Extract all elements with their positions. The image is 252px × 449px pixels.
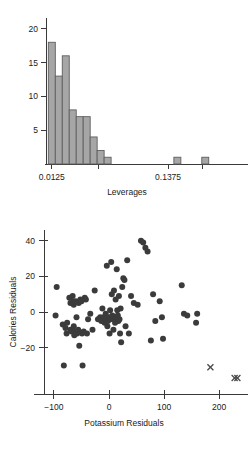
hist-x-axis-title: Leverages [107, 187, 147, 197]
scatter-point [111, 288, 117, 294]
scatter-point [64, 320, 70, 326]
scatter-point [116, 316, 122, 322]
scatter-y-tick-label: 0 [30, 307, 35, 317]
scatter-point [124, 257, 130, 263]
scatter-point [92, 288, 98, 294]
scatter-x-tick-label: −100 [44, 402, 63, 412]
scatter-point [160, 336, 166, 342]
scatter-point [128, 293, 134, 299]
hist-x-tick-label: 0.1375 [155, 172, 181, 182]
scatter-point [126, 330, 132, 336]
scatter-y-tick-label: −20 [21, 343, 36, 353]
scatter-x-tick-label: 0 [107, 402, 112, 412]
hist-y-tick-label: 10 [29, 91, 39, 101]
scatter-point [150, 291, 156, 297]
scatter-point [118, 339, 124, 345]
scatter-point [74, 314, 80, 320]
hist-bar [83, 117, 90, 164]
scatter-point [104, 323, 110, 329]
hist-bar [62, 56, 69, 164]
scatter-point [76, 343, 82, 349]
hist-bar [97, 150, 104, 164]
scatter-point [85, 316, 91, 322]
residuals-scatter-svg: −2002040−1000100200Potassium ResidualsCa… [0, 212, 252, 449]
scatter-point [110, 327, 116, 333]
hist-bar [174, 157, 181, 164]
scatter-point [194, 311, 200, 317]
residuals-scatter-figure: −2002040−1000100200Potassium ResidualsCa… [0, 212, 252, 449]
leverages-histogram-figure: 51015200.01250.1375Leverages [0, 0, 252, 212]
scatter-point [61, 362, 67, 368]
scatter-y-axis-title: Calories Residuals [8, 277, 18, 348]
scatter-point [54, 284, 60, 290]
scatter-y-tick-label: 40 [26, 236, 36, 246]
hist-bar [69, 110, 76, 164]
scatter-point [179, 282, 185, 288]
hist-y-tick-label: 5 [33, 125, 38, 135]
scatter-point [108, 259, 114, 265]
scatter-point [157, 298, 163, 304]
scatter-point [99, 305, 105, 311]
scatter-point [135, 302, 141, 308]
scatter-point [83, 297, 89, 303]
hist-bar [48, 42, 55, 164]
scatter-point [53, 313, 59, 319]
scatter-point [123, 323, 129, 329]
scatter-point [80, 362, 86, 368]
scatter-point [114, 266, 120, 272]
scatter-x-axis-title: Potassium Residuals [84, 418, 163, 428]
scatter-point [148, 338, 154, 344]
scatter-point [121, 277, 127, 283]
hist-y-tick-label: 15 [29, 58, 39, 68]
scatter-point [145, 248, 151, 254]
scatter-point [117, 330, 123, 336]
scatter-point [84, 330, 90, 336]
scatter-point [70, 293, 76, 299]
scatter-x-tick-label: 200 [212, 402, 226, 412]
hist-x-tick-label: 0.0125 [39, 172, 65, 182]
scatter-point [87, 311, 93, 317]
scatter-point [118, 305, 124, 311]
scatter-point [159, 314, 165, 320]
hist-bar [76, 117, 83, 164]
hist-bar [90, 137, 97, 164]
scatter-point [184, 313, 190, 319]
scatter-point [119, 284, 125, 290]
hist-bar [55, 76, 62, 164]
hist-y-tick-label: 20 [29, 24, 39, 34]
scatter-point [140, 239, 146, 245]
scatter-point [107, 307, 113, 313]
leverages-histogram-svg: 51015200.01250.1375Leverages [0, 0, 252, 212]
scatter-point [193, 320, 199, 326]
scatter-point [116, 293, 122, 299]
scatter-x-tick-label: 100 [157, 402, 171, 412]
scatter-y-tick-label: 20 [26, 271, 36, 281]
scatter-outlier-marker [207, 364, 213, 370]
scatter-point [152, 318, 158, 324]
scatter-point [89, 327, 95, 333]
hist-bar [202, 157, 209, 164]
hist-bar [104, 157, 111, 164]
